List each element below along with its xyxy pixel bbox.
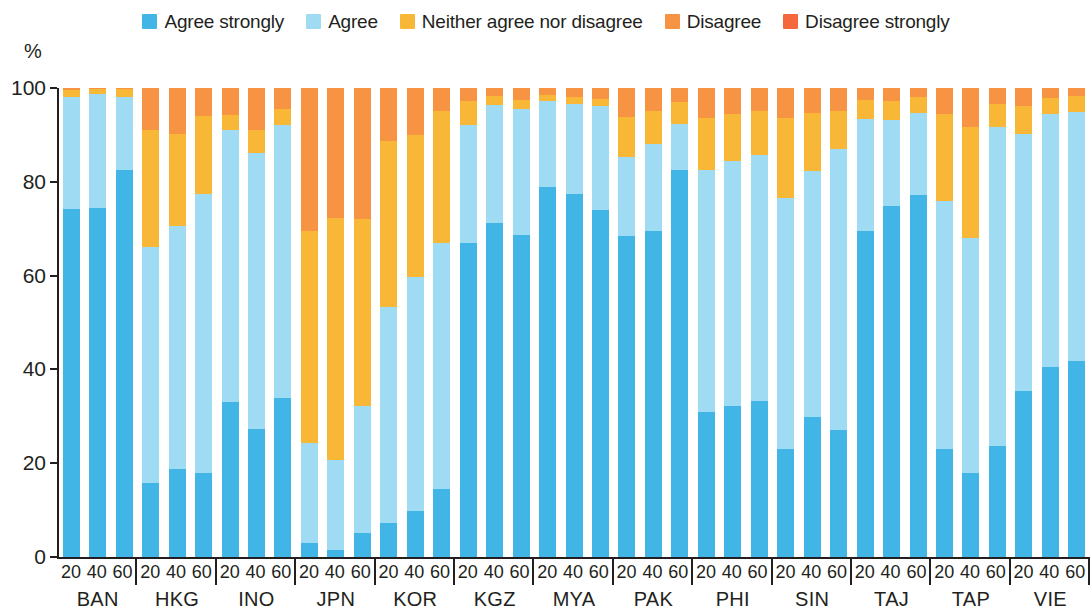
stacked-bar[interactable] bbox=[89, 88, 106, 557]
bar-segment bbox=[1068, 361, 1085, 557]
stacked-bar[interactable] bbox=[671, 88, 688, 557]
bar-segment bbox=[513, 109, 530, 235]
bar-segment bbox=[513, 88, 530, 100]
stacked-bar[interactable] bbox=[936, 88, 953, 557]
stacked-bar[interactable] bbox=[433, 88, 450, 557]
x-axis-tick-group: 204060 bbox=[773, 559, 852, 585]
stacked-bar[interactable] bbox=[222, 88, 239, 557]
stacked-bar[interactable] bbox=[195, 88, 212, 557]
bar-segment bbox=[962, 473, 979, 557]
stacked-bar[interactable] bbox=[698, 88, 715, 557]
stacked-bar[interactable] bbox=[380, 88, 397, 557]
x-axis-subtick-label: 40 bbox=[801, 563, 821, 581]
bar-group bbox=[534, 88, 613, 557]
stacked-bar[interactable] bbox=[830, 88, 847, 557]
bar-group bbox=[217, 88, 296, 557]
y-axis-tick-label: 80 bbox=[0, 171, 46, 192]
stacked-bar[interactable] bbox=[618, 88, 635, 557]
legend-item-label: Agree strongly bbox=[164, 12, 284, 31]
stacked-bar[interactable] bbox=[1068, 88, 1085, 557]
stacked-bar[interactable] bbox=[274, 88, 291, 557]
legend-item: Agree bbox=[306, 12, 378, 31]
bar-segment bbox=[116, 170, 133, 557]
stacked-bar[interactable] bbox=[169, 88, 186, 557]
bar-segment bbox=[274, 88, 291, 109]
stacked-bar[interactable] bbox=[910, 88, 927, 557]
stacked-bar[interactable] bbox=[645, 88, 662, 557]
bar-segment bbox=[1015, 134, 1032, 391]
bar-segment bbox=[566, 104, 583, 194]
stacked-bar[interactable] bbox=[777, 88, 794, 557]
bar-group bbox=[455, 88, 534, 557]
bar-segment bbox=[671, 124, 688, 170]
x-axis-tick-group: 204060 bbox=[852, 559, 931, 585]
bar-segment bbox=[248, 153, 265, 430]
bar-group bbox=[296, 88, 375, 557]
bar-segment bbox=[962, 127, 979, 238]
stacked-bar[interactable] bbox=[883, 88, 900, 557]
x-axis-category-label: JPN bbox=[317, 589, 356, 609]
bar-segment bbox=[354, 533, 371, 557]
x-axis-subtick-label: 20 bbox=[855, 563, 875, 581]
stacked-bar[interactable] bbox=[989, 88, 1006, 557]
stacked-bar[interactable] bbox=[116, 88, 133, 557]
stacked-bar[interactable] bbox=[592, 88, 609, 557]
stacked-bar[interactable] bbox=[354, 88, 371, 557]
stacked-bar[interactable] bbox=[513, 88, 530, 557]
bar-segment bbox=[751, 155, 768, 401]
x-axis-tick-group: 204060 bbox=[58, 559, 137, 585]
x-axis-subtick-label: 60 bbox=[827, 563, 847, 581]
x-axis-subtick-label: 20 bbox=[140, 563, 160, 581]
bar-segment bbox=[618, 117, 635, 157]
bar-group bbox=[137, 88, 216, 557]
square-swatch bbox=[142, 14, 157, 29]
bar-segment bbox=[989, 127, 1006, 445]
stacked-bar[interactable] bbox=[539, 88, 556, 557]
stacked-bar[interactable] bbox=[751, 88, 768, 557]
stacked-bar[interactable] bbox=[327, 88, 344, 557]
stacked-bar[interactable] bbox=[248, 88, 265, 557]
stacked-bar[interactable] bbox=[1015, 88, 1032, 557]
stacked-bar[interactable] bbox=[142, 88, 159, 557]
bar-segment bbox=[433, 489, 450, 557]
stacked-bar[interactable] bbox=[962, 88, 979, 557]
bar-segment bbox=[460, 101, 477, 125]
bar-segment bbox=[486, 105, 503, 223]
bar-segment bbox=[566, 97, 583, 104]
bar-segment bbox=[751, 88, 768, 111]
x-axis-category-group: MYA bbox=[534, 586, 613, 612]
bar-segment bbox=[724, 88, 741, 114]
stacked-bar[interactable] bbox=[486, 88, 503, 557]
x-axis-category-group: KOR bbox=[376, 586, 455, 612]
bar-segment bbox=[380, 307, 397, 523]
bar-segment bbox=[354, 219, 371, 407]
x-axis-subtick-label: 40 bbox=[563, 563, 583, 581]
x-axis-subtick-label: 40 bbox=[87, 563, 107, 581]
stacked-bar[interactable] bbox=[460, 88, 477, 557]
bar-segment bbox=[460, 243, 477, 557]
y-axis-tick-label: 40 bbox=[0, 358, 46, 379]
x-axis-category-group: VIE bbox=[1011, 586, 1090, 612]
stacked-bar[interactable] bbox=[857, 88, 874, 557]
x-axis-category-group: INO bbox=[217, 586, 296, 612]
bar-segment bbox=[407, 511, 424, 557]
stacked-bar[interactable] bbox=[724, 88, 741, 557]
x-axis-subtick-label: 20 bbox=[617, 563, 637, 581]
x-axis-subtick-label: 20 bbox=[61, 563, 81, 581]
stacked-bar[interactable] bbox=[804, 88, 821, 557]
bar-group bbox=[1011, 88, 1090, 557]
stacked-bar[interactable] bbox=[1042, 88, 1059, 557]
bar-segment bbox=[910, 97, 927, 113]
stacked-bar[interactable] bbox=[301, 88, 318, 557]
stacked-bar[interactable] bbox=[63, 88, 80, 557]
bar-segment bbox=[407, 135, 424, 277]
bar-segment bbox=[195, 194, 212, 473]
x-axis-tick-group: 204060 bbox=[296, 559, 375, 585]
bar-segment bbox=[169, 469, 186, 557]
stacked-bar[interactable] bbox=[566, 88, 583, 557]
bar-segment bbox=[539, 101, 556, 188]
legend-item-label: Agree bbox=[328, 12, 378, 31]
stacked-bar[interactable] bbox=[407, 88, 424, 557]
bar-segment bbox=[1042, 114, 1059, 366]
bar-segment bbox=[1042, 367, 1059, 557]
